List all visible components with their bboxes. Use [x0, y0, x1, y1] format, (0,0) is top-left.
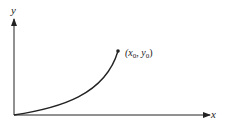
- point-label: (x0, y0): [125, 47, 153, 60]
- curve: [14, 51, 118, 115]
- diagram-canvas: y x (x0, y0): [0, 0, 225, 129]
- y-axis-label: y: [10, 4, 16, 16]
- x-axis-label: x: [210, 108, 216, 120]
- point-marker: [116, 49, 120, 53]
